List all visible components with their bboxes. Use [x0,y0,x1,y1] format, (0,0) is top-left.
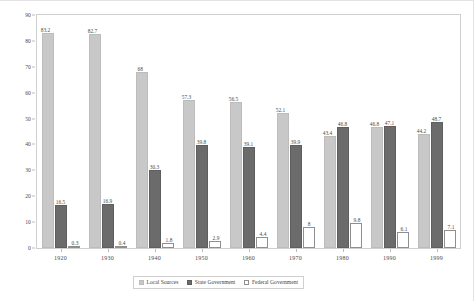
x-axis-tick-label: 1920 [54,254,67,262]
bars-container: 83.216.50.382.716.90.46830.31.857.339.82… [37,15,460,248]
x-axis-tick-label: 1970 [289,254,302,262]
bar-local[interactable]: 57.3 [183,100,195,248]
bar-federal[interactable]: 0.4 [115,246,127,248]
bar-value-label: 83.2 [41,27,50,33]
bar-federal[interactable]: 1.8 [162,243,174,248]
bar-federal[interactable]: 7.1 [444,230,456,248]
bar-state[interactable]: 30.3 [149,170,161,248]
bar-state[interactable]: 39.1 [243,147,255,248]
y-axis-tick-mark [32,170,35,171]
bar-value-label: 9.8 [354,217,361,223]
legend-item-local[interactable]: Local Sources [139,279,178,286]
bar-local[interactable]: 82.7 [89,34,101,248]
bar-value-label: 1.8 [166,237,173,243]
chart-legend: Local SourcesState GovernmentFederal Gov… [133,276,304,289]
bar-value-label: 39.1 [244,141,253,147]
y-axis-tick-label: 70 [25,64,31,70]
x-axis-tick-mark [108,249,109,252]
x-axis-tick-mark [296,249,297,252]
bar-group: 6830.31.8 [136,15,174,248]
x-axis-tick-label: 1950 [195,254,208,262]
y-axis-tick-label: 60 [25,90,31,96]
x-axis-tick-mark [249,249,250,252]
legend-swatch-icon [139,280,144,285]
y-axis-tick-label: 80 [25,38,31,44]
legend-item-federal[interactable]: Federal Government [244,279,298,286]
bar-value-label: 30.3 [150,164,159,170]
bar-value-label: 46.8 [370,121,379,127]
legend-swatch-icon [244,280,249,285]
bar-group: 52.139.98 [277,15,315,248]
y-axis-tick-label: 30 [25,167,31,173]
x-axis-tick-label: 1999 [430,254,443,262]
legend-swatch-icon [187,280,192,285]
bar-value-label: 46.8 [338,121,347,127]
bar-group: 46.847.16.1 [371,15,409,248]
y-axis-tick-mark [32,15,35,16]
x-axis-tick-label: 1960 [242,254,255,262]
bar-value-label: 52.1 [276,107,285,113]
bar-federal[interactable]: 0.3 [68,246,80,248]
chart-figure: 0102030405060708090 83.216.50.382.716.90… [0,0,474,301]
x-axis-tick-mark [437,249,438,252]
bar-state[interactable]: 39.9 [290,145,302,248]
bar-value-label: 39.8 [197,139,206,145]
y-axis: 0102030405060708090 [0,14,36,250]
bar-value-label: 43.4 [323,130,332,136]
bar-state[interactable]: 47.1 [384,126,396,248]
bar-value-label: 39.9 [291,139,300,145]
bar-federal[interactable]: 9.8 [350,223,362,248]
y-axis-tick-mark [32,248,35,249]
y-axis-tick-mark [32,196,35,197]
y-axis-tick-label: 10 [25,219,31,225]
y-axis-tick-mark [32,92,35,93]
x-axis-tick-mark [390,249,391,252]
bar-local[interactable]: 44.2 [418,134,430,248]
x-axis-tick-mark [61,249,62,252]
bar-local[interactable]: 43.4 [324,136,336,248]
y-axis-tick-label: 0 [28,245,31,251]
x-axis: 192019301940195019601970198019901999 [36,251,461,265]
bar-value-label: 68 [138,66,143,72]
bar-local[interactable]: 46.8 [371,127,383,248]
bar-federal[interactable]: 2.9 [209,241,221,249]
bar-group: 57.339.82.9 [183,15,221,248]
bar-value-label: 7.1 [448,224,455,230]
bar-value-label: 82.7 [88,28,97,34]
x-axis-tick-mark [202,249,203,252]
bar-value-label: 2.9 [213,235,220,241]
bar-value-label: 48.7 [432,116,441,122]
bar-state[interactable]: 46.8 [337,127,349,248]
bar-local[interactable]: 52.1 [277,113,289,248]
bar-local[interactable]: 68 [136,72,148,248]
bar-value-label: 4.4 [260,231,267,237]
bar-federal[interactable]: 6.1 [397,232,409,248]
x-axis-tick-label: 1940 [148,254,161,262]
bar-state[interactable]: 48.7 [431,122,443,248]
y-axis-tick-label: 50 [25,116,31,122]
bar-value-label: 0.4 [119,240,126,246]
y-axis-tick-mark [32,66,35,67]
bar-value-label: 0.3 [72,240,79,246]
x-axis-tick-label: 1930 [101,254,114,262]
bar-federal[interactable]: 4.4 [256,237,268,248]
bar-state[interactable]: 39.8 [196,145,208,248]
bar-value-label: 16.5 [56,199,65,205]
bar-value-label: 6.1 [401,226,408,232]
y-axis-tick-mark [32,144,35,145]
bar-federal[interactable]: 8 [303,227,315,248]
y-axis-tick-label: 40 [25,141,31,147]
y-axis-tick-label: 20 [25,193,31,199]
bar-state[interactable]: 16.5 [55,205,67,248]
y-axis-tick-mark [32,222,35,223]
legend-item-state[interactable]: State Government [187,279,235,286]
bar-local[interactable]: 83.2 [42,33,54,248]
bar-value-label: 56.5 [229,96,238,102]
legend-item-label: Local Sources [147,279,179,286]
bar-state[interactable]: 16.9 [102,204,114,248]
bar-local[interactable]: 56.5 [230,102,242,248]
x-axis-tick-label: 1990 [383,254,396,262]
legend-item-label: State Government [195,279,236,286]
x-axis-tick-mark [155,249,156,252]
y-axis-tick-mark [32,40,35,41]
